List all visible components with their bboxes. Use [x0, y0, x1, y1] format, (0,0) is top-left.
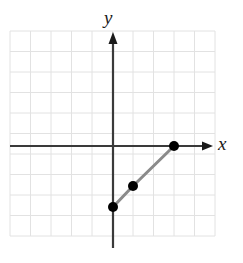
graph-canvas — [0, 0, 243, 263]
coordinate-plane-figure: y x — [0, 0, 243, 263]
y-axis-label: y — [104, 8, 112, 27]
data-point-marker — [108, 202, 118, 212]
data-line-segment — [113, 146, 174, 207]
y-axis-arrowhead — [109, 32, 118, 44]
x-axis-label: x — [218, 134, 226, 153]
x-axis-arrowhead — [202, 142, 213, 151]
data-series-layer — [108, 141, 179, 212]
data-point-marker — [128, 181, 138, 191]
data-point-marker — [169, 141, 179, 151]
